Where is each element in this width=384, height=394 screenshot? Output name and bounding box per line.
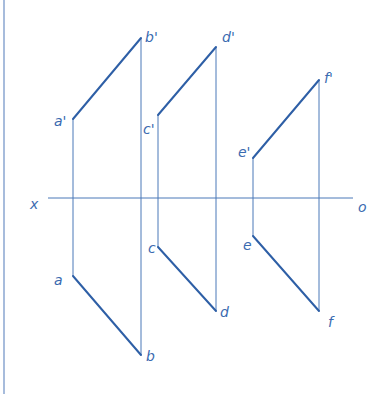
top-view-cd — [158, 247, 216, 311]
diagram-svg: x o a' b' a b c' d' c d — [0, 0, 384, 394]
segment-ab: a' b' a b — [54, 29, 158, 364]
projection-diagram: x o a' b' a b c' d' c d — [0, 0, 384, 394]
front-view-cd — [158, 47, 216, 115]
axis-label-o: o — [358, 199, 367, 215]
segment-ef: e' f' e f — [238, 70, 335, 330]
label-a-prime: a' — [54, 113, 66, 129]
label-f-prime: f' — [324, 70, 333, 86]
segment-cd: c' d' c d — [143, 29, 235, 320]
label-d-prime: d' — [222, 29, 235, 45]
front-view-ab — [73, 38, 141, 119]
label-d: d — [220, 304, 229, 320]
label-f: f — [328, 314, 335, 330]
label-c-prime: c' — [143, 121, 155, 137]
label-e-prime: e' — [238, 144, 250, 160]
front-view-ef — [253, 80, 319, 158]
label-c: c — [148, 240, 156, 256]
axis-label-x: x — [29, 196, 39, 212]
top-view-ab — [73, 276, 141, 355]
top-view-ef — [253, 236, 319, 311]
label-e: e — [243, 237, 252, 253]
label-b-prime: b' — [145, 29, 158, 45]
label-b: b — [146, 348, 155, 364]
label-a: a — [54, 272, 63, 288]
